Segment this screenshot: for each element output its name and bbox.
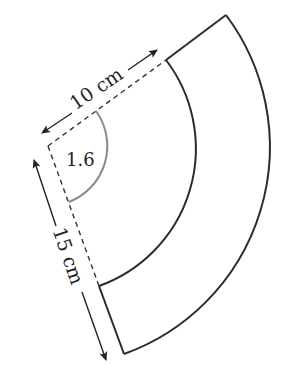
dimension-arrow-15cm-bottom — [82, 292, 106, 360]
top-edge — [166, 15, 226, 60]
bottom-edge — [99, 286, 124, 354]
label-10cm: 10 cm — [66, 63, 127, 114]
inner-arc — [99, 60, 196, 286]
dimension-arrow-10cm-right — [128, 50, 157, 70]
label-15cm: 15 cm — [49, 224, 89, 287]
label-angle: 1.6 — [66, 149, 95, 170]
dimension-arrow-15cm-top — [34, 160, 56, 226]
outer-arc — [124, 15, 270, 354]
dimension-arrow-10cm-left — [42, 113, 72, 133]
diagram-canvas: 10 cm 15 cm 1.6 — [0, 0, 291, 379]
sector-diagram: 10 cm 15 cm 1.6 — [0, 0, 291, 379]
